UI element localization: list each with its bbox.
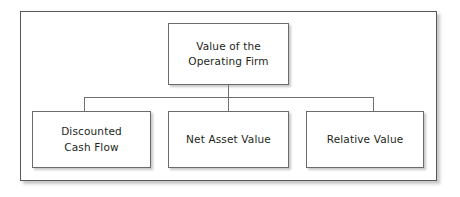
diagram-frame: Value of the Operating Firm Discounted C… (20, 11, 437, 181)
connector-drop-left (84, 97, 85, 112)
node-discounted-cash-flow[interactable]: Discounted Cash Flow (32, 111, 151, 168)
node-relative-value[interactable]: Relative Value (306, 111, 424, 168)
node-label-relative-value: Relative Value (327, 132, 404, 147)
node-label-net-asset-value: Net Asset Value (186, 132, 271, 147)
connector-drop-right (373, 97, 374, 112)
connector-drop-middle (228, 97, 229, 112)
diagram-canvas: Value of the Operating Firm Discounted C… (0, 0, 460, 197)
node-label-value-of-operating-firm: Value of the Operating Firm (188, 39, 269, 69)
node-value-of-operating-firm[interactable]: Value of the Operating Firm (168, 23, 289, 85)
node-net-asset-value[interactable]: Net Asset Value (168, 111, 289, 168)
node-label-discounted-cash-flow: Discounted Cash Flow (61, 124, 122, 154)
